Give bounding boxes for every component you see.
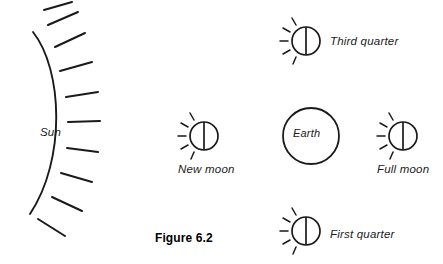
sun-arc <box>30 32 56 214</box>
label-new-moon: New moon <box>178 163 235 175</box>
label-full-moon: Full moon <box>377 163 429 175</box>
moon-first-quarter-group <box>280 208 320 254</box>
figure-caption: Figure 6.2 <box>155 231 213 245</box>
sun-ray-3 <box>55 33 85 47</box>
sun-ray-10 <box>38 219 65 236</box>
label-first-quarter: First quarter <box>330 228 395 240</box>
sun-ray-4 <box>60 62 92 71</box>
sun-ray-6 <box>68 121 100 122</box>
sun-ray-7 <box>67 148 98 152</box>
sun-ray-2 <box>48 12 78 25</box>
sun-group <box>30 2 100 236</box>
sun-rays <box>38 2 100 236</box>
moon-full-group <box>377 113 417 159</box>
sun-ray-5 <box>66 92 98 97</box>
sun-ray-9 <box>52 197 82 211</box>
label-earth: Earth <box>293 127 320 139</box>
label-third-quarter: Third quarter <box>330 35 398 47</box>
figure-container: Sun Earth New moon Full moon Third quart… <box>0 0 443 264</box>
label-sun: Sun <box>40 126 61 138</box>
moon-third-quarter-group <box>280 18 320 64</box>
sun-ray-1 <box>44 2 72 10</box>
moon-new-group <box>178 113 218 159</box>
sun-ray-8 <box>61 173 92 182</box>
